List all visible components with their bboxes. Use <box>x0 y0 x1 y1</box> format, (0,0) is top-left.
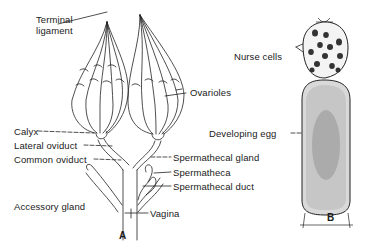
spermatheca-leader <box>154 172 171 173</box>
label-developing-egg: Developing egg <box>209 129 276 139</box>
label-spermathecal-gland: Spermathecal gland <box>173 153 259 163</box>
label-spermatheca: Spermatheca <box>173 168 231 178</box>
label-vagina: Vagina <box>150 209 179 219</box>
follicle-illustration <box>300 18 353 228</box>
label-terminal-ligament-line2: ligament <box>36 26 73 36</box>
lateral-oviduct-leader <box>84 145 112 146</box>
left-ovary-illustration <box>72 22 128 139</box>
calyx-leader <box>38 131 94 133</box>
figure-b-caption: B <box>327 212 334 223</box>
common-oviduct-leader <box>94 159 121 160</box>
spermatheca-illustration <box>138 177 156 200</box>
label-terminal-ligament-line1: Terminal <box>36 15 73 25</box>
label-nurse-cells: Nurse cells <box>234 52 282 62</box>
accessory-gland-illustration <box>86 164 122 212</box>
right-lateral-oviduct <box>133 141 155 168</box>
label-spermathecal-duct: Spermathecal duct <box>173 182 254 192</box>
label-calyx: Calyx <box>14 127 38 137</box>
label-accessory-gland: Accessory gland <box>14 202 85 212</box>
figure-a-caption: A <box>119 230 126 241</box>
right-ovary-illustration <box>128 15 184 140</box>
ovarioles-leader <box>165 89 186 96</box>
label-ovarioles: Ovarioles <box>190 88 231 98</box>
insect-reproductive-system-diagram <box>0 0 370 251</box>
label-lateral-oviduct: Lateral oviduct <box>14 141 77 151</box>
vagina-leader <box>125 209 148 218</box>
label-terminal-ligament: Terminal ligament <box>36 15 73 36</box>
left-lateral-oviduct <box>98 140 123 170</box>
label-common-oviduct: Common oviduct <box>14 155 87 165</box>
